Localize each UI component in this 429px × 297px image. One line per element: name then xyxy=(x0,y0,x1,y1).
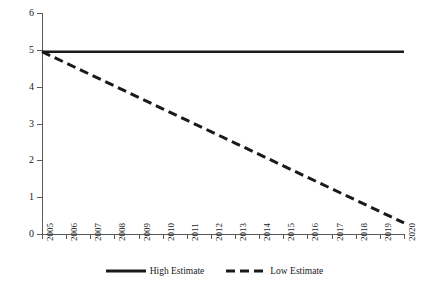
y-axis-tick xyxy=(37,160,42,161)
y-axis-tick-label: 3 xyxy=(8,119,34,129)
x-axis-tick-label: 2019 xyxy=(384,223,393,241)
y-axis-tick xyxy=(37,50,42,51)
y-axis-tick xyxy=(37,87,42,88)
legend-label: Low Estimate xyxy=(270,266,323,276)
legend-item-high-estimate[interactable]: High Estimate xyxy=(106,266,205,276)
x-axis-tick xyxy=(211,234,212,239)
y-axis-line xyxy=(42,13,43,234)
y-axis-tick xyxy=(37,124,42,125)
x-axis-tick-label: 2010 xyxy=(167,223,176,241)
x-axis-tick-label: 2017 xyxy=(336,223,345,241)
x-axis-tick xyxy=(307,234,308,239)
x-axis-tick-label: 2018 xyxy=(360,223,369,241)
x-axis-tick xyxy=(42,234,43,239)
x-axis-tick xyxy=(332,234,333,239)
y-axis-tick-label: 0 xyxy=(8,229,34,239)
x-axis-tick-label: 2020 xyxy=(408,223,417,241)
x-axis-tick-label: 2007 xyxy=(94,223,103,241)
x-axis-tick-label: 2015 xyxy=(287,223,296,241)
x-axis-tick-label: 2012 xyxy=(215,223,224,241)
x-axis-tick xyxy=(235,234,236,239)
y-axis-tick-label: 1 xyxy=(8,192,34,202)
x-axis-tick xyxy=(380,234,381,239)
legend-swatch-dashed xyxy=(226,266,266,276)
line-chart: 0123456 20052006200720082009201020112012… xyxy=(0,0,429,297)
x-axis-tick xyxy=(404,234,405,239)
x-axis-tick xyxy=(283,234,284,239)
y-axis-tick-label: 4 xyxy=(8,82,34,92)
x-axis-tick-label: 2005 xyxy=(46,223,55,241)
x-axis-tick xyxy=(356,234,357,239)
x-axis-tick xyxy=(187,234,188,239)
x-axis-tick-label: 2016 xyxy=(311,223,320,241)
y-axis-tick xyxy=(37,197,42,198)
x-axis-tick-label: 2011 xyxy=(191,223,200,241)
legend-item-low-estimate[interactable]: Low Estimate xyxy=(226,266,323,276)
y-axis-tick-label: 5 xyxy=(8,45,34,55)
legend: High EstimateLow Estimate xyxy=(0,266,429,276)
x-axis-tick xyxy=(90,234,91,239)
x-axis-tick-label: 2009 xyxy=(143,223,152,241)
x-axis-tick-label: 2014 xyxy=(263,223,272,241)
series-layer xyxy=(0,0,429,297)
x-axis-tick xyxy=(139,234,140,239)
x-axis-tick xyxy=(114,234,115,239)
x-axis-tick xyxy=(259,234,260,239)
x-axis-tick-label: 2008 xyxy=(118,223,127,241)
y-axis-tick xyxy=(37,13,42,14)
y-axis-tick-label: 6 xyxy=(8,8,34,18)
legend-swatch-solid xyxy=(106,266,146,276)
x-axis-tick-label: 2006 xyxy=(70,223,79,241)
legend-label: High Estimate xyxy=(150,266,205,276)
x-axis-tick-label: 2013 xyxy=(239,223,248,241)
series-line-low-estimate xyxy=(42,52,404,223)
x-axis-tick xyxy=(66,234,67,239)
x-axis-tick xyxy=(163,234,164,239)
y-axis-tick-label: 2 xyxy=(8,155,34,165)
